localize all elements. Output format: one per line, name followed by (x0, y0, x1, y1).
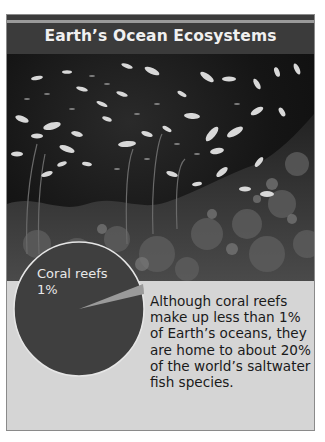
title-bar: Earth’s Ocean Ecosystems (7, 15, 314, 54)
pie-label-percent: 1% (37, 282, 108, 298)
caption-text: Although coral reefs make up less than 1… (150, 293, 315, 390)
page-title: Earth’s Ocean Ecosystems (7, 27, 314, 45)
pie-chart (12, 240, 146, 382)
title-stripe-divider (7, 20, 314, 23)
pie-label-name: Coral reefs (37, 266, 108, 282)
infographic-panel: Earth’s Ocean Ecosystems (7, 15, 314, 430)
pie-label-coral-reefs: Coral reefs 1% (37, 266, 108, 298)
